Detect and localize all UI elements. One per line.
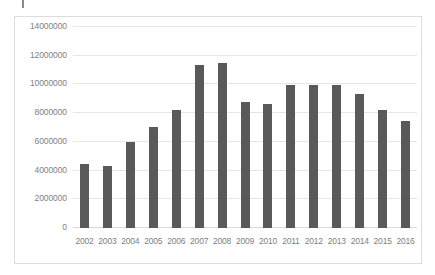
clipped-text-artifact	[22, 0, 24, 8]
bar-slot	[165, 27, 188, 228]
x-axis-tick-label: 2002	[73, 236, 96, 250]
bar-slot	[188, 27, 211, 228]
x-axis-tick-label: 2009	[234, 236, 257, 250]
bar-slot	[348, 27, 371, 228]
bar	[126, 142, 135, 228]
bar-slot	[142, 27, 165, 228]
x-axis-tick-label: 2016	[394, 236, 417, 250]
bar-slot	[73, 27, 96, 228]
bar	[401, 121, 410, 228]
bars-layer	[73, 27, 417, 228]
bar	[309, 85, 318, 228]
x-axis-tick-label: 2011	[279, 236, 302, 250]
y-axis-tick-label: 2000000	[35, 193, 73, 203]
bar	[378, 110, 387, 228]
bar	[103, 166, 112, 228]
bar	[218, 63, 227, 228]
x-axis-tick-label: 2010	[257, 236, 280, 250]
bar-slot	[96, 27, 119, 228]
bar-slot	[279, 27, 302, 228]
y-axis-tick-label: 12000000	[30, 50, 73, 60]
bar-slot	[257, 27, 280, 228]
bar-slot	[371, 27, 394, 228]
x-axis-tick-label: 2015	[371, 236, 394, 250]
y-axis-tick-label: 4000000	[35, 165, 73, 175]
bar	[172, 110, 181, 228]
x-axis-tick-label: 2012	[302, 236, 325, 250]
bar	[195, 65, 204, 228]
bar-slot	[119, 27, 142, 228]
bar	[286, 85, 295, 228]
y-axis-tick-label: 0	[62, 222, 73, 232]
x-axis-tick-label: 2005	[142, 236, 165, 250]
y-axis-tick-label: 8000000	[35, 107, 73, 117]
x-axis-tick-label: 2003	[96, 236, 119, 250]
y-axis-tick-label: 14000000	[30, 21, 73, 31]
chart-frame: 0200000040000006000000800000010000000120…	[14, 16, 422, 264]
bar-slot	[234, 27, 257, 228]
bar-slot	[302, 27, 325, 228]
x-axis-tick-label: 2013	[325, 236, 348, 250]
bar	[263, 104, 272, 228]
bar	[80, 164, 89, 228]
x-axis-tick-label: 2006	[165, 236, 188, 250]
x-axis-tick-label: 2008	[211, 236, 234, 250]
y-axis-tick-label: 6000000	[35, 136, 73, 146]
bar-slot	[394, 27, 417, 228]
bar-slot	[211, 27, 234, 228]
plot-area: 0200000040000006000000800000010000000120…	[73, 27, 417, 228]
x-axis-tick-label: 2007	[188, 236, 211, 250]
x-axis-tick-label: 2014	[348, 236, 371, 250]
bar-slot	[325, 27, 348, 228]
x-axis-tick-label: 2004	[119, 236, 142, 250]
x-axis-tick-labels: 2002200320042005200620072008200920102011…	[73, 236, 417, 250]
bar	[149, 127, 158, 228]
y-axis-tick-label: 10000000	[30, 78, 73, 88]
bar	[332, 85, 341, 228]
bar	[241, 102, 250, 228]
bar	[355, 94, 364, 228]
